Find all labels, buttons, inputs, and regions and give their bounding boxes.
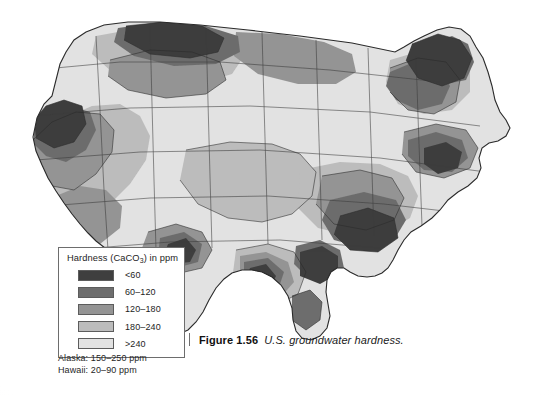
legend-item: 120–180 <box>66 302 177 316</box>
note-alaska: Alaska: 150–250 ppm <box>58 353 147 365</box>
figure-number: Figure 1.56 <box>199 334 258 346</box>
legend-item-label: 120–180 <box>125 304 161 314</box>
map-notes: Alaska: 150–250 ppm Hawaii: 20–90 ppm <box>58 353 147 376</box>
figure-caption: Figure 1.56 U.S. groundwater hardness. <box>189 331 404 346</box>
legend-item: 60–120 <box>66 285 177 299</box>
legend-swatch-icon <box>78 321 114 332</box>
legend-swatch-icon <box>78 304 114 315</box>
map-legend: Hardness (CaCO3) in ppm <60 60–120 120–1… <box>58 247 185 358</box>
legend-item-label: <60 <box>125 270 141 280</box>
legend-swatch-icon <box>78 287 114 298</box>
legend-item: <60 <box>66 268 177 282</box>
note-hawaii: Hawaii: 20–90 ppm <box>58 365 147 377</box>
legend-item: 180–240 <box>66 320 177 334</box>
legend-title-prefix: Hardness (CaCO <box>67 253 140 263</box>
legend-title: Hardness (CaCO3) in ppm <box>67 253 177 264</box>
legend-item-label: >240 <box>125 339 146 349</box>
legend-item-label: 180–240 <box>125 322 161 332</box>
legend-item: >240 <box>66 337 177 351</box>
legend-swatch-icon <box>78 338 114 349</box>
figure-caption-text: U.S. groundwater hardness. <box>264 334 404 346</box>
vertical-rule-icon <box>189 333 190 346</box>
legend-swatch-icon <box>78 270 114 281</box>
legend-title-suffix: ) in ppm <box>144 253 178 263</box>
legend-item-label: 60–120 <box>125 287 156 297</box>
